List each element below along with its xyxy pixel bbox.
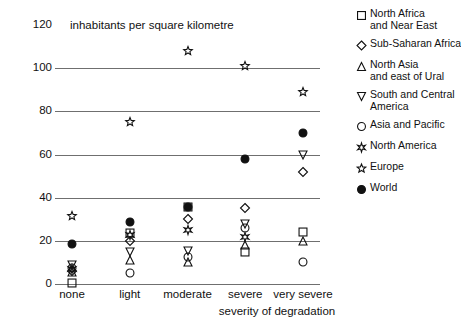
x-tick-label: very severe (273, 288, 332, 300)
circle-open-icon (352, 119, 370, 133)
star-plus-open-icon (352, 140, 370, 154)
x-tick-label: moderate (163, 288, 212, 300)
data-point (241, 62, 250, 71)
legend-item[interactable]: Asia and Pacific (352, 119, 457, 133)
legend-item-label: North Africaand Near East (370, 8, 437, 31)
legend-item[interactable]: Europe (352, 161, 457, 175)
legend-item-label: Asia and Pacific (370, 119, 445, 131)
gridline (55, 284, 320, 285)
plot-area (55, 25, 320, 284)
legend-item[interactable]: South and CentralAmerica (352, 89, 457, 112)
data-point (125, 269, 134, 278)
gridline (55, 111, 320, 112)
legend-label-line: Asia and Pacific (370, 119, 445, 131)
data-point (299, 258, 308, 267)
y-tick-label: 20 (6, 235, 52, 246)
legend-item-label: Sub-Saharan Africa (370, 38, 461, 50)
chart-canvas: inhabitants per square kilometre 0204060… (0, 0, 340, 332)
y-tick-label: 0 (6, 278, 52, 289)
data-point (68, 212, 77, 221)
legend-item[interactable]: Sub-Saharan Africa (352, 38, 457, 52)
triangle-down-open-icon (352, 89, 370, 103)
data-point (299, 236, 308, 245)
gridline (55, 241, 320, 242)
gridline (55, 198, 320, 199)
data-point (125, 256, 134, 265)
data-point (125, 118, 134, 127)
legend-item-label: North America (370, 140, 437, 152)
legend-label-line: Sub-Saharan Africa (370, 38, 461, 50)
y-tick-label: 120 (6, 19, 52, 30)
legend-item-label: South and CentralAmerica (370, 89, 455, 112)
data-point (183, 203, 192, 212)
legend-label-line: South and Central (370, 89, 455, 101)
data-point (183, 226, 192, 235)
data-point (183, 253, 192, 262)
legend-label-line: World (370, 182, 397, 194)
data-point (299, 228, 308, 237)
data-point (299, 150, 308, 159)
data-point (68, 278, 77, 287)
y-axis-ticks: 020406080100120 (0, 25, 52, 284)
gridline (55, 155, 320, 156)
legend-item-label: North Asiaand east of Ural (370, 59, 444, 82)
y-tick-label: 100 (6, 62, 52, 73)
legend-label-line: North America (370, 140, 437, 152)
legend-label-line: North Asia (370, 59, 444, 71)
diamond-open-icon (352, 38, 370, 52)
data-point (241, 232, 250, 241)
data-point (241, 204, 250, 213)
triangle-up-open-icon (352, 59, 370, 73)
data-point (299, 128, 308, 137)
x-axis-title: severity of degradation (219, 305, 335, 317)
star-open-icon (352, 161, 370, 175)
y-tick-label: 40 (6, 192, 52, 203)
legend-item[interactable]: North Africaand Near East (352, 8, 457, 31)
data-point (125, 247, 134, 256)
data-point (125, 231, 134, 240)
legend-item[interactable]: World (352, 182, 457, 196)
gridline (55, 68, 320, 69)
legend-label-line: and east of Ural (370, 71, 444, 83)
x-tick-label: severe (228, 288, 263, 300)
data-point (68, 240, 77, 249)
square-open-icon (352, 8, 370, 22)
legend-label-line: North Africa (370, 8, 437, 20)
legend-item-label: Europe (370, 161, 404, 173)
data-point (241, 154, 250, 163)
x-tick-label: light (119, 288, 140, 300)
legend-label-line: and Near East (370, 20, 437, 32)
y-tick-label: 80 (6, 105, 52, 116)
legend-label-line: Europe (370, 161, 404, 173)
data-point (299, 87, 308, 96)
circle-filled-icon (352, 182, 370, 196)
legend-item-label: World (370, 182, 397, 194)
legend-item[interactable]: North Asiaand east of Ural (352, 59, 457, 82)
x-tick-label: none (59, 288, 85, 300)
y-tick-label: 60 (6, 149, 52, 160)
data-point (299, 167, 308, 176)
data-point (125, 218, 134, 227)
legend-label-line: America (370, 101, 455, 113)
data-point (68, 264, 77, 273)
data-point (183, 215, 192, 224)
data-point (183, 46, 192, 55)
legend-item[interactable]: North America (352, 140, 457, 154)
legend: North Africaand Near EastSub-Saharan Afr… (352, 8, 457, 203)
